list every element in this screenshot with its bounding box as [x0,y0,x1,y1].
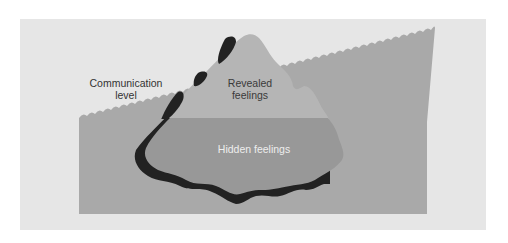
iceberg-diagram: Communication level Revealed feelings Hi… [0,0,508,243]
revealed-feelings-label: Revealed feelings [208,77,292,101]
communication-level-label: Communication level [78,77,174,101]
iceberg-illustration [0,0,508,243]
hidden-feelings-label: Hidden feelings [196,143,312,155]
